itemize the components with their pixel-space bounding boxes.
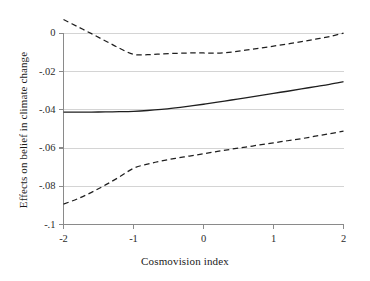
x-axis-title: Cosmovision index — [0, 255, 370, 267]
chart-figure: 0-.02-.04-.06-.08-.1 -2-1012 Cosmovision… — [0, 0, 370, 281]
series-line-0 — [64, 82, 344, 112]
x-tick-label: 2 — [341, 234, 346, 245]
y-axis-title: Effects on belief in climate change — [17, 30, 29, 230]
axis-lines — [64, 33, 344, 224]
x-tick-label: -1 — [129, 234, 138, 245]
series-line-2 — [64, 131, 344, 204]
x-tick-label: -2 — [59, 234, 68, 245]
tick-marks — [59, 33, 344, 229]
plot-canvas — [0, 0, 370, 281]
gridlines — [64, 33, 344, 224]
x-tick-label: 0 — [201, 234, 206, 245]
series-line-1 — [64, 20, 344, 55]
data-curves — [64, 20, 344, 205]
x-tick-label: 1 — [271, 234, 276, 245]
